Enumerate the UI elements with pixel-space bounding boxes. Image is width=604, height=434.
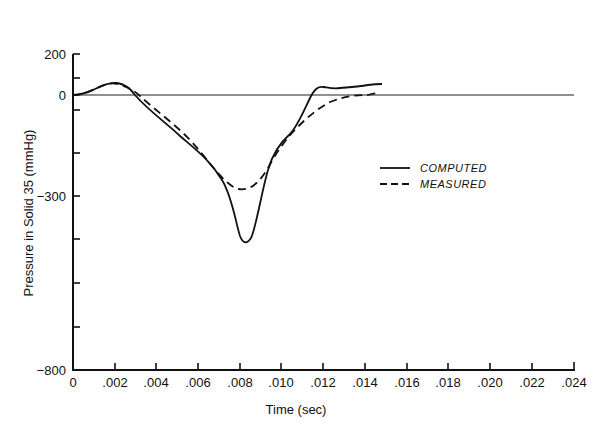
x-tick-label: .020 (477, 375, 502, 390)
measured-series-line (73, 83, 378, 189)
x-tick-label: .014 (352, 375, 377, 390)
x-tick-labels: 0 .002 .004 .006 .008 .010 .012 .014 .01… (69, 375, 586, 390)
x-tick-label: .016 (394, 375, 419, 390)
y-tick-label-0: 0 (59, 88, 66, 103)
x-tick-label: .012 (310, 375, 335, 390)
pressure-chart: 200 0 −300 −800 0 .002 .004 .006 .008 .0… (0, 0, 604, 434)
legend: COMPUTED MEASURED (380, 162, 487, 190)
x-axis-title: Time (sec) (266, 402, 327, 417)
y-tick-label-minus-300: −300 (37, 189, 66, 204)
x-tick-label: .010 (268, 375, 293, 390)
x-tick-label: .004 (143, 375, 168, 390)
x-tick-label: .002 (102, 375, 127, 390)
y-tick-label-200: 200 (44, 47, 66, 62)
y-axis-title: Pressure in Solid 35 (mmHg) (21, 130, 36, 297)
x-tick-label: .006 (185, 375, 210, 390)
legend-computed-label: COMPUTED (420, 162, 487, 174)
computed-series-line (73, 83, 382, 242)
x-tick-label: .024 (561, 375, 586, 390)
x-tick-label: .008 (227, 375, 252, 390)
x-tick-label: .018 (435, 375, 460, 390)
y-tick-label-minus-800: −800 (37, 363, 66, 378)
x-ticks (115, 362, 574, 370)
x-tick-label: 0 (69, 375, 76, 390)
legend-measured-label: MEASURED (420, 178, 486, 190)
x-tick-label: .022 (519, 375, 544, 390)
